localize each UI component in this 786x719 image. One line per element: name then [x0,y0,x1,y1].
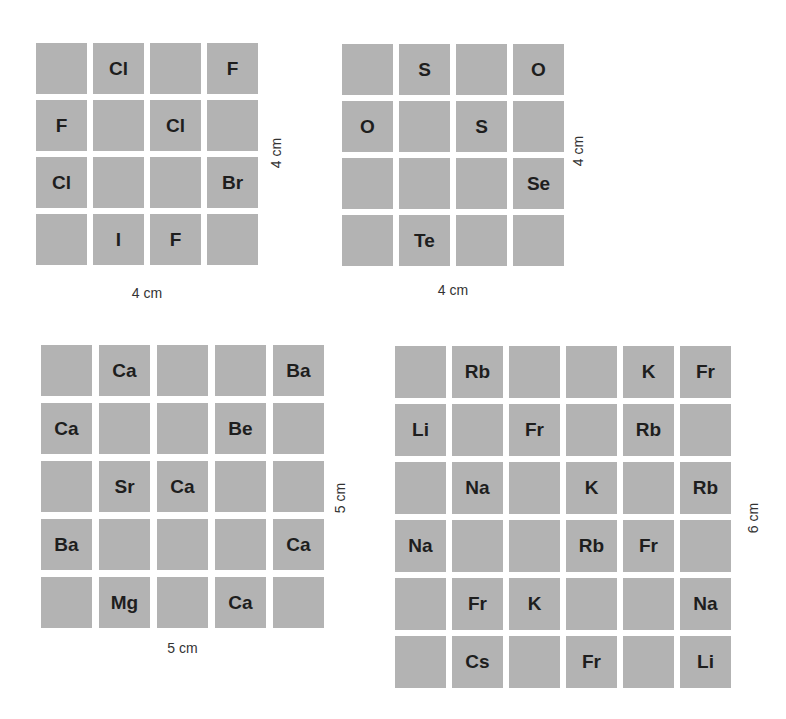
grid-halogens-height-label: 4 cm [268,123,284,183]
grid-cell: Rb [680,462,731,514]
grid-cell [215,461,266,512]
grid-alkali-height-label: 6 cm [745,488,761,548]
grid-cell [509,520,560,572]
grid-cell: Li [395,404,446,456]
grid-cell: Fr [452,578,503,630]
grid-cell [342,158,393,209]
grid-cell [99,403,150,454]
grid-cell [513,215,564,266]
grid-cell: Rb [566,520,617,572]
grid-chalcogens-height-label: 4 cm [570,121,586,181]
grid-cell: Cl [150,100,201,151]
grid-cell [207,214,258,265]
grid-cell [509,346,560,398]
grid-cell: Se [513,158,564,209]
grid-cell [273,403,324,454]
grid-cell [36,43,87,94]
grid-cell [342,215,393,266]
grid-cell: Ba [41,519,92,570]
grid-cell [41,577,92,628]
grid-cell [452,520,503,572]
grid-cell: O [342,101,393,152]
grid-cell: Sr [99,461,150,512]
grid-cell: Rb [623,404,674,456]
grid-cell: Ca [41,403,92,454]
grid-cell: Cl [93,43,144,94]
grid-cell: Te [399,215,450,266]
grid-cell [273,461,324,512]
grid-cell [509,462,560,514]
grid-cell: I [93,214,144,265]
grid-cell: Na [452,462,503,514]
grid-cell [342,44,393,95]
grid-cell [41,461,92,512]
grid-cell: Li [680,636,731,688]
grid-cell: K [509,578,560,630]
grid-cell: Ca [157,461,208,512]
grid-cell [395,578,446,630]
grid-alkaline-earth-height-label: 5 cm [332,468,348,528]
grid-alkaline-earth-width-label: 5 cm [41,640,324,656]
grid-alkaline-earth: CaBaCaBeSrCaBaCaMgCa [41,345,324,628]
grid-cell: Ca [99,345,150,396]
grid-cell [456,158,507,209]
grid-cell: K [566,462,617,514]
grid-cell [456,44,507,95]
grid-cell: Br [207,157,258,208]
grid-cell: F [36,100,87,151]
grid-cell [513,101,564,152]
grid-cell [566,404,617,456]
grid-cell [509,636,560,688]
grid-cell: F [207,43,258,94]
grid-cell: Fr [509,404,560,456]
grid-cell [680,404,731,456]
grid-cell: Ca [215,577,266,628]
grid-cell [207,100,258,151]
grid-cell [566,346,617,398]
grid-cell [41,345,92,396]
grid-cell: Rb [452,346,503,398]
grid-cell [399,158,450,209]
grid-cell [273,577,324,628]
grid-cell [623,636,674,688]
grid-cell: O [513,44,564,95]
grid-halogens-width-label: 4 cm [36,285,258,301]
grid-cell [566,578,617,630]
grid-cell: Fr [623,520,674,572]
grid-cell [452,404,503,456]
grid-cell [395,636,446,688]
grid-cell [36,214,87,265]
grid-halogens: ClFFClClBrIF [36,43,258,265]
grid-chalcogens-width-label: 4 cm [342,282,564,298]
grid-cell [395,346,446,398]
grid-cell: Mg [99,577,150,628]
grid-cell: Cs [452,636,503,688]
grid-cell [150,43,201,94]
grid-cell [456,215,507,266]
grid-cell: Na [395,520,446,572]
grid-cell [399,101,450,152]
grid-cell [623,462,674,514]
grid-cell [395,462,446,514]
grid-cell [150,157,201,208]
grid-cell [99,519,150,570]
grid-cell: K [623,346,674,398]
grid-cell: Ba [273,345,324,396]
grid-cell [215,519,266,570]
grid-cell: Be [215,403,266,454]
grid-cell: Fr [566,636,617,688]
grid-cell: F [150,214,201,265]
grid-cell: Ca [273,519,324,570]
grid-cell [680,520,731,572]
grid-cell: Fr [680,346,731,398]
grid-cell [215,345,266,396]
grid-cell: S [456,101,507,152]
grid-cell [157,345,208,396]
grid-cell: S [399,44,450,95]
grid-cell [623,578,674,630]
grid-chalcogens: SOOSSeTe [342,44,564,266]
grid-cell [157,403,208,454]
grid-cell [157,519,208,570]
grid-cell [93,100,144,151]
grid-alkali: RbKFrLiFrRbNaKRbNaRbFrFrKNaCsFrLi [395,346,731,688]
